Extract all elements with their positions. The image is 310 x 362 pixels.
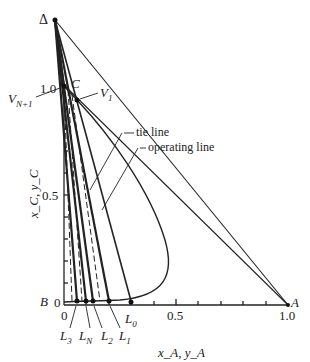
operating-lines [55,20,288,305]
x-tick-0: 0 [61,309,68,322]
point-c-label: C [71,77,80,90]
tie-line-label: tie line [136,126,169,138]
equilibrium-curve [64,86,169,302]
y-tick-0: 0 [54,296,61,309]
delta-label: Δ [39,13,48,27]
y-axis-label: x_C, y_C [27,170,40,218]
point-a-label: A [291,296,299,309]
l0-label: L0 [125,312,137,329]
l1-label: L1 [119,329,131,346]
hypotenuse [64,85,288,305]
operating-line-label: operating line [148,141,214,153]
y-tick-1: 1.0 [40,82,56,95]
v-n1-label: VN+1 [8,92,33,109]
v1-label: V1 [100,86,112,103]
l2-label: L2 [101,329,113,346]
x-axis-label: x_A, y_A [158,346,205,359]
ln-label: LN [79,329,92,346]
point-b-label: B [40,295,48,308]
l3-label: L3 [60,329,72,346]
x-tick-1: 1.0 [279,309,295,322]
x-tick-05: 0.5 [167,309,183,322]
y-tick-05: 0.5 [42,189,58,202]
